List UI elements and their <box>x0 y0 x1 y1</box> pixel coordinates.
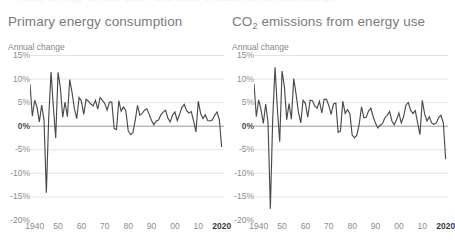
y-tick-right-2: 5% <box>242 97 254 107</box>
y-tick-right-5: -10% <box>234 168 254 178</box>
x-tick-right-6: 00 <box>394 221 403 231</box>
x-axis-labels-right: 1940506070809000102020 <box>254 218 444 240</box>
page-title-right: CO2 emissions from energy use <box>232 14 425 29</box>
x-axis-labels-left: 1940506070809000102020 <box>30 218 220 240</box>
y-tick-right-6: -15% <box>234 191 254 201</box>
panel-title-right-rest: emissions from energy use <box>258 14 426 29</box>
y-tick-right-4: -5% <box>239 144 254 154</box>
data-series-left <box>30 72 222 193</box>
y-tick-left-4: -5% <box>15 144 30 154</box>
chart-svg-right <box>254 55 448 220</box>
y-tick-left-1: 10% <box>13 74 30 84</box>
x-tick-left-5: 90 <box>147 221 156 231</box>
x-tick-right-8: 2020 <box>436 221 455 231</box>
plot-area-left: 15%10%5%0%-5%-10%-15%-20% 19405060708090… <box>0 55 224 245</box>
x-tick-left-3: 70 <box>100 221 109 231</box>
x-tick-left-2: 60 <box>77 221 86 231</box>
y-tick-right-0: 15% <box>237 50 254 60</box>
y-tick-left-5: -10% <box>10 168 30 178</box>
x-tick-left-4: 80 <box>123 221 132 231</box>
y-tick-left-2: 5% <box>18 97 30 107</box>
panel-title-left-text: Primary energy consumption <box>8 14 182 29</box>
x-tick-left-7: 10 <box>194 221 203 231</box>
y-axis-labels-right: 15%10%5%0%-5%-10%-15%-20% <box>224 55 254 220</box>
subscript-two: 2 <box>252 21 257 31</box>
y-axis-labels-left: 15%10%5%0%-5%-10%-15%-20% <box>0 55 30 220</box>
page-title-left: Primary energy consumption <box>8 14 182 29</box>
x-tick-right-5: 90 <box>371 221 380 231</box>
plot-area-right: 15%10%5%0%-5%-10%-15%-20% 19405060708090… <box>224 55 448 245</box>
y-tick-right-1: 10% <box>237 74 254 84</box>
x-tick-right-4: 80 <box>347 221 356 231</box>
x-tick-right-0: 1940 <box>249 221 268 231</box>
panel-primary-energy-consumption: Primary energy consumption Annual change… <box>0 0 224 245</box>
data-series-right <box>254 67 446 208</box>
x-tick-right-3: 70 <box>324 221 333 231</box>
x-tick-right-2: 60 <box>301 221 310 231</box>
x-tick-left-0: 1940 <box>25 221 44 231</box>
panel-co2-emissions: CO2 emissions from energy use Annual cha… <box>224 0 449 245</box>
y-tick-left-3: 0% <box>18 121 30 131</box>
x-tick-left-6: 00 <box>170 221 179 231</box>
x-tick-right-7: 10 <box>418 221 427 231</box>
x-tick-left-1: 50 <box>53 221 62 231</box>
chart-svg-left <box>30 55 224 220</box>
y-tick-left-6: -15% <box>10 191 30 201</box>
panel-title-right-text: CO <box>232 14 252 29</box>
y-tick-right-3: 0% <box>242 121 254 131</box>
x-tick-right-1: 50 <box>277 221 286 231</box>
y-tick-left-0: 15% <box>13 50 30 60</box>
